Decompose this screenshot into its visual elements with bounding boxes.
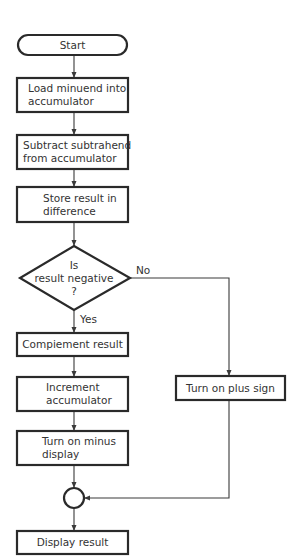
- edge-label-yes: Yes: [79, 313, 97, 325]
- nodes-layer: StartLoad minuend intoaccumulatorSubtrac…: [17, 35, 285, 554]
- decision-label-line: Is: [70, 259, 79, 271]
- node-load: Load minuend intoaccumulator: [17, 78, 128, 112]
- minus-label-line: display: [42, 448, 79, 460]
- node-complement: Compiement result: [17, 333, 128, 356]
- edge-label-no: No: [136, 264, 150, 276]
- store-label-line: difference: [43, 205, 96, 217]
- subtract-label-line: from accumulator: [23, 152, 117, 164]
- subtract-label-line: Subtract subtrahend: [23, 139, 131, 151]
- load-label-line: Load minuend into: [28, 82, 126, 94]
- increment-label-line: Increment: [46, 381, 100, 393]
- node-decision: Isresult negative?: [20, 246, 130, 310]
- display-label-line: Display result: [37, 536, 109, 548]
- node-subtract: Subtract subtrahendfrom accumulator: [17, 135, 131, 169]
- start-label-line: Start: [60, 39, 86, 51]
- complement-label-line: Compiement result: [22, 338, 123, 350]
- plus-label-line: Turn on plus sign: [185, 382, 275, 394]
- node-start: Start: [18, 35, 127, 55]
- node-plus: Turn on plus sign: [176, 376, 285, 400]
- decision-label-line: ?: [71, 285, 77, 297]
- minus-label-line: Turn on minus: [41, 435, 116, 447]
- flowchart-canvas: StartLoad minuend intoaccumulatorSubtrac…: [0, 0, 297, 560]
- decision-label-line: result negative: [35, 272, 114, 284]
- node-minus: Turn on minusdisplay: [17, 431, 128, 465]
- increment-label-line: accumulator: [46, 394, 112, 406]
- connector-circle: [64, 488, 84, 508]
- load-label-line: accumulator: [28, 95, 94, 107]
- node-store: Store result indifference: [17, 187, 128, 222]
- node-display: Display result: [17, 531, 128, 554]
- node-increment: Incrementaccumulator: [17, 377, 128, 411]
- node-connector: [64, 488, 84, 508]
- store-label-line: Store result in: [43, 192, 117, 204]
- edge-decision-plus: [130, 278, 229, 376]
